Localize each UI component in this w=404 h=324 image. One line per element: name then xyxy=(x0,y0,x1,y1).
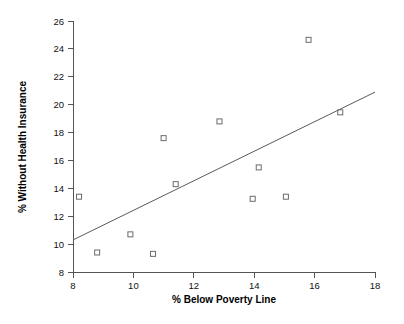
axes xyxy=(73,21,375,273)
data-point-marker xyxy=(250,196,255,201)
data-point-marker xyxy=(217,119,222,124)
y-tick-label: 22 xyxy=(53,71,64,82)
x-axis-ticks: 81012141618 xyxy=(70,272,380,291)
x-tick-label: 16 xyxy=(309,280,320,291)
y-tick-label: 20 xyxy=(53,99,64,110)
y-tick-label: 18 xyxy=(53,127,64,138)
y-tick-label: 10 xyxy=(53,239,64,250)
y-tick-label: 8 xyxy=(59,267,64,278)
data-point-marker xyxy=(173,182,178,187)
data-points-group xyxy=(77,37,343,256)
data-point-marker xyxy=(338,110,343,115)
chart-canvas: 8101214161820222426 81012141618 % Below … xyxy=(0,0,404,324)
y-axis-title: % Without Health Insurance xyxy=(17,80,28,213)
x-tick-label: 18 xyxy=(370,280,381,291)
x-tick-label: 8 xyxy=(70,280,75,291)
y-tick-label: 12 xyxy=(53,211,64,222)
y-tick-label: 24 xyxy=(53,43,64,54)
y-tick-label: 14 xyxy=(53,183,64,194)
y-axis-ticks: 8101214161820222426 xyxy=(53,16,73,278)
scatter-plot-figure: 8101214161820222426 81012141618 % Below … xyxy=(0,0,404,324)
trend-line-group xyxy=(73,92,375,240)
x-tick-label: 12 xyxy=(189,280,200,291)
data-point-marker xyxy=(283,194,288,199)
x-tick-label: 10 xyxy=(128,280,139,291)
data-point-marker xyxy=(128,232,133,237)
data-point-marker xyxy=(306,37,311,42)
data-point-marker xyxy=(77,194,82,199)
x-tick-label: 14 xyxy=(249,280,260,291)
data-point-marker xyxy=(256,165,261,170)
x-axis-title: % Below Poverty Line xyxy=(172,294,276,305)
data-point-marker xyxy=(95,250,100,255)
regression-line xyxy=(73,92,375,240)
data-point-marker xyxy=(161,136,166,141)
y-tick-label: 16 xyxy=(53,155,64,166)
data-point-marker xyxy=(151,251,156,256)
y-tick-label: 26 xyxy=(53,16,64,27)
